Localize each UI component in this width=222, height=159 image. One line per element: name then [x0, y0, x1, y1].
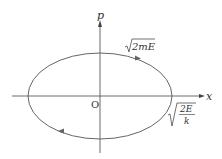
top-intercept-label: 2mE — [125, 39, 156, 52]
right-intercept-label: 2E k — [168, 103, 196, 126]
x-axis-label: x — [206, 90, 213, 103]
p-axis-label: p — [97, 9, 104, 22]
origin-label: O — [91, 99, 99, 110]
x-axis-arrow-icon — [199, 94, 205, 98]
svg-text:k: k — [184, 116, 189, 126]
phase-space-diagram: x p O 2mE 2E k — [0, 0, 222, 159]
svg-text:2mE: 2mE — [131, 41, 156, 52]
svg-text:2E: 2E — [179, 104, 193, 114]
